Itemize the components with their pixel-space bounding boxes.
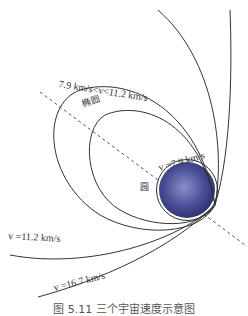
hyperbola-upper <box>215 10 231 205</box>
orbit-diagram <box>0 0 248 316</box>
major-axis-dashed-line <box>40 92 245 245</box>
circle-label: 圆 <box>140 180 149 193</box>
figure-caption: 图 5.11 三个宇宙速度示意图 <box>0 300 248 316</box>
